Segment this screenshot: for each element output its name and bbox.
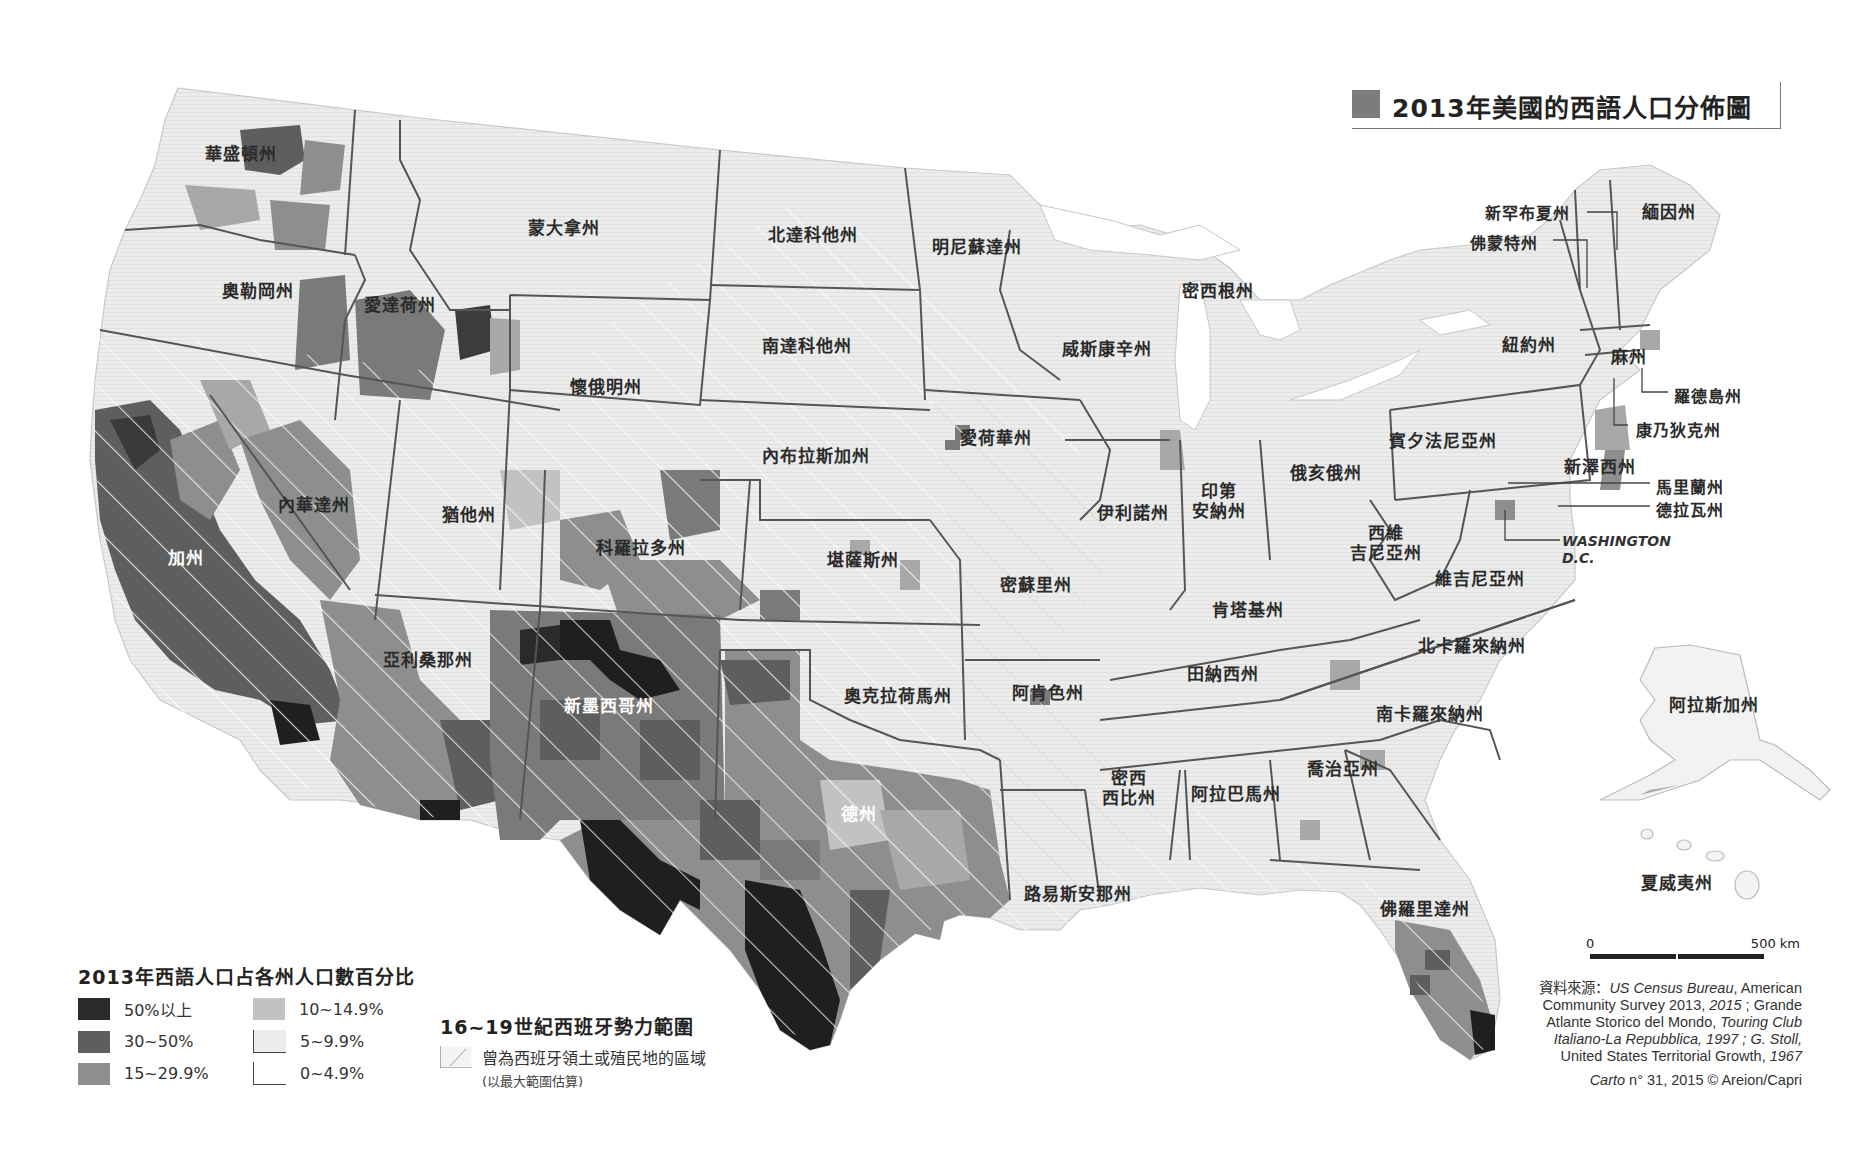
- label-alabama: 阿拉巴馬州: [1191, 784, 1281, 804]
- label-colorado: 科羅拉多州: [596, 538, 686, 558]
- spanish-legend-title: 16~19世紀西班牙勢力範圍: [440, 1012, 706, 1039]
- label-west-virginia: 西維 吉尼亞州: [1350, 523, 1422, 564]
- label-montana: 蒙大拿州: [528, 218, 600, 238]
- label-new-hampshire: 新罕布夏州: [1485, 200, 1570, 224]
- label-south-carolina: 南卡羅來納州: [1376, 704, 1484, 724]
- label-louisiana: 路易斯安那州: [1024, 884, 1132, 904]
- label-missouri: 密蘇里州: [1000, 575, 1072, 595]
- label-connecticut: 康乃狄克州: [1636, 417, 1721, 441]
- label-utah: 猶他州: [442, 505, 496, 525]
- label-oklahoma: 奧克拉荷馬州: [844, 686, 952, 706]
- alaska: [1600, 645, 1830, 800]
- map-title: 2013年美國的西語人口分佈圖: [1392, 88, 1752, 124]
- label-new-jersey: 新澤西州: [1564, 457, 1636, 477]
- label-rhode-island: 羅德島州: [1674, 383, 1742, 407]
- label-alaska: 阿拉斯加州: [1669, 695, 1759, 715]
- spanish-legend-note: (以最大範圍估算): [482, 1071, 706, 1090]
- spanish-influence-legend: 16~19世紀西班牙勢力範圍 曾為西班牙領土或殖民地的區域 (以最大範圍估算): [440, 1012, 706, 1090]
- label-arizona: 亞利桑那州: [383, 650, 473, 670]
- label-florida: 佛羅里達州: [1380, 899, 1470, 919]
- legend-title: 2013年西語人口占各州人口數百分比: [78, 962, 415, 989]
- label-nebraska: 內布拉斯加州: [762, 446, 870, 466]
- hatch-swatch-icon: [440, 1046, 472, 1068]
- label-texas: 德州: [841, 804, 877, 824]
- swatch-50-plus: [78, 998, 110, 1020]
- label-north-carolina: 北卡羅來納州: [1418, 636, 1526, 656]
- label-kansas: 堪薩斯州: [827, 550, 899, 570]
- label-virginia: 維吉尼亞州: [1435, 569, 1525, 589]
- label-kentucky: 肯塔基州: [1212, 600, 1284, 620]
- label-massachusetts: 麻州: [1611, 347, 1647, 367]
- label-hawaii: 夏威夷州: [1641, 873, 1713, 893]
- swatch-0-4: [253, 1062, 286, 1085]
- legend-item-30-50: 30~50%: [78, 1030, 253, 1053]
- swatch-15-29: [78, 1063, 110, 1085]
- label-mississippi: 密西 西比州: [1102, 768, 1156, 809]
- label-north-dakota: 北達科他州: [768, 225, 858, 245]
- label-pennsylvania: 賓夕法尼亞州: [1389, 431, 1497, 451]
- label-new-mexico: 新墨西哥州: [564, 696, 654, 716]
- label-idaho: 愛達荷州: [364, 295, 436, 315]
- legend-item-15-29: 15~29.9%: [78, 1062, 253, 1085]
- label-georgia: 喬治亞州: [1307, 759, 1379, 779]
- label-maine: 緬因州: [1642, 202, 1696, 222]
- label-illinois: 伊利諾州: [1097, 503, 1169, 523]
- label-michigan: 密西根州: [1182, 281, 1254, 301]
- label-nevada: 內華達州: [278, 495, 350, 515]
- label-maryland: 馬里蘭州: [1656, 474, 1724, 498]
- swatch-30-50: [78, 1031, 110, 1053]
- label-indiana: 印第 安納州: [1192, 481, 1246, 522]
- label-new-york: 紐約州: [1502, 335, 1556, 355]
- label-vermont: 佛蒙特州: [1470, 230, 1538, 254]
- label-washington: 華盛頓州: [205, 144, 277, 164]
- legend-item-10-14: 10~14.9%: [253, 997, 403, 1021]
- label-california: 加州: [168, 548, 204, 568]
- legend-item-50-plus: 50%以上: [78, 997, 253, 1021]
- label-oregon: 奧勒岡州: [222, 281, 294, 301]
- title-swatch: [1352, 90, 1380, 118]
- legend-item-5-9: 5~9.9%: [253, 1030, 403, 1053]
- label-iowa: 愛荷華州: [960, 428, 1032, 448]
- map-credit: Carto n° 31, 2015 © Areion/Capri: [1590, 1072, 1802, 1088]
- label-ohio: 俄亥俄州: [1290, 463, 1362, 483]
- label-minnesota: 明尼蘇達州: [932, 237, 1022, 257]
- label-south-dakota: 南達科他州: [762, 336, 852, 356]
- percentage-legend: 2013年西語人口占各州人口數百分比 50%以上 10~14.9% 30~50%…: [78, 962, 415, 1085]
- label-wisconsin: 威斯康辛州: [1062, 339, 1152, 359]
- label-wyoming: 懷俄明州: [570, 377, 642, 397]
- label-washington-dc: WASHINGTON D.C.: [1562, 533, 1671, 567]
- map-title-box: 2013年美國的西語人口分佈圖: [1352, 82, 1781, 129]
- swatch-5-9: [253, 1030, 286, 1053]
- swatch-10-14: [253, 998, 285, 1020]
- spanish-legend-item: 曾為西班牙領土或殖民地的區域: [440, 1045, 706, 1069]
- legend-item-0-4: 0~4.9%: [253, 1062, 403, 1085]
- label-tennessee: 田納西州: [1187, 664, 1259, 684]
- label-arkansas: 阿肯色州: [1012, 683, 1084, 703]
- data-source: 資料來源：US Census Bureau, American Communit…: [1539, 980, 1802, 1065]
- label-delaware: 德拉瓦州: [1656, 497, 1724, 521]
